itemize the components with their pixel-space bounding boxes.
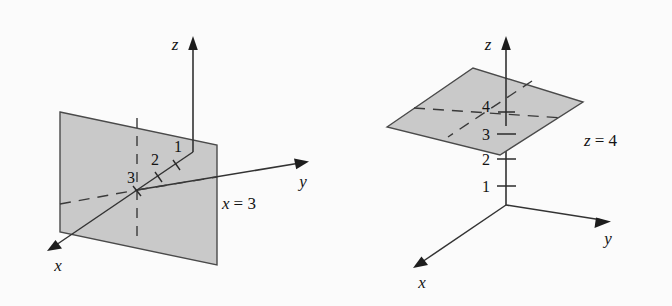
x-axis-label: x bbox=[53, 256, 62, 275]
z-tick-label-4: 4 bbox=[482, 98, 490, 115]
plane-equation-variable-right: z bbox=[583, 131, 591, 150]
z-tick-label-2: 2 bbox=[482, 151, 490, 168]
plane-equation-variable-left: x bbox=[221, 194, 230, 213]
plane-equation-label-left: x= 3 bbox=[221, 194, 256, 213]
plane-equation-label-right: z= 4 bbox=[583, 131, 617, 150]
z-tick-label-1: 1 bbox=[482, 178, 490, 195]
z-axis-arrowhead-icon bbox=[501, 36, 511, 50]
z-axis-label: z bbox=[171, 35, 179, 54]
two-plane-diagram-figure: z y x 1 2 3 x= 3 z bbox=[0, 0, 672, 306]
right-panel-diagram: z 1 2 3 4 y x z= 4 bbox=[336, 0, 672, 306]
y-axis-label: y bbox=[602, 229, 612, 248]
x-tick-label-3: 3 bbox=[127, 169, 135, 186]
z-tick-label-3: 3 bbox=[482, 126, 490, 143]
z-axis-label: z bbox=[484, 35, 492, 54]
x-tick-label-1: 1 bbox=[174, 138, 182, 155]
z-axis-arrowhead-icon bbox=[188, 36, 198, 50]
y-axis-line bbox=[506, 205, 602, 220]
y-axis-arrowhead-icon bbox=[294, 159, 309, 170]
x-axis-line bbox=[422, 205, 506, 262]
y-axis-label: y bbox=[297, 172, 307, 191]
plane-equation-relation-right: = 4 bbox=[595, 131, 618, 150]
left-panel-diagram: z y x 1 2 3 x= 3 bbox=[0, 0, 336, 306]
plane-equation-relation-left: = 3 bbox=[234, 194, 256, 213]
x-axis-label: x bbox=[417, 273, 426, 292]
x-tick-label-2: 2 bbox=[151, 151, 159, 168]
x-axis-arrowhead-icon bbox=[413, 257, 428, 269]
y-axis-arrowhead-icon bbox=[595, 218, 612, 229]
